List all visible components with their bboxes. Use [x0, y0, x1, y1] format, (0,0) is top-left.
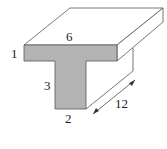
label-length: 12 — [115, 96, 128, 111]
arrowhead-icon — [93, 108, 99, 114]
t-prism-diagram: 6 1 3 2 12 — [0, 0, 167, 149]
label-flange-thickness: 1 — [11, 46, 18, 61]
front-t-face — [24, 45, 117, 109]
label-stem-height: 3 — [44, 78, 51, 93]
length-dimension-line — [93, 80, 135, 114]
label-stem-width: 2 — [65, 111, 72, 126]
arrowhead-icon — [129, 80, 135, 86]
label-top-width: 6 — [66, 29, 73, 44]
